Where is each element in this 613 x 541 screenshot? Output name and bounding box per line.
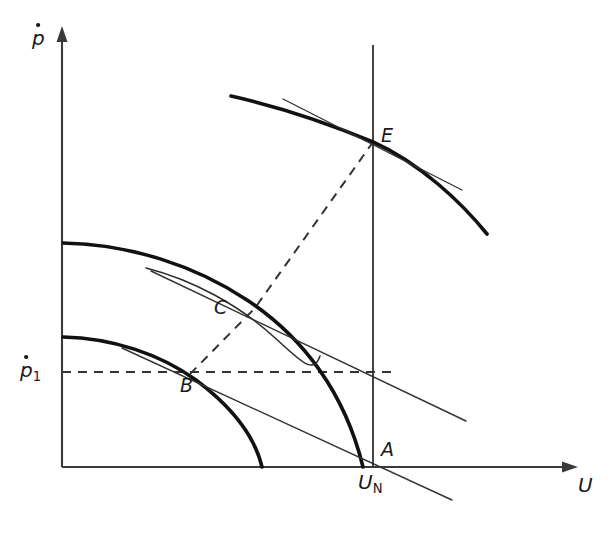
- y-axis-label: p: [32, 28, 45, 48]
- figure-root: p p1 U UN E C B A: [0, 0, 613, 541]
- x-axis-arrow-icon: [562, 462, 578, 473]
- x-tick-label-base: U: [358, 470, 373, 494]
- x-axis-label: U: [578, 475, 593, 495]
- y-axis-label-text: p: [32, 28, 45, 48]
- point-label-B: B: [180, 376, 193, 395]
- y-tick-label-subscript: 1: [33, 369, 42, 384]
- load-transfer-dashed-path: [190, 142, 373, 374]
- upper-characteristic-curve: [231, 96, 487, 234]
- y-tick-label-base: p: [20, 360, 33, 380]
- y-axis-arrow-icon: [57, 26, 68, 42]
- diagram-canvas: [0, 0, 613, 541]
- x-tick-label-subscript: N: [373, 481, 383, 496]
- y-axis-tick-label: p1: [20, 360, 41, 383]
- point-label-A: A: [381, 440, 394, 459]
- x-axis-group: [62, 462, 578, 473]
- middle-characteristic-curve: [63, 243, 363, 467]
- tangent-at-C: [151, 271, 466, 421]
- point-label-C: C: [214, 298, 227, 317]
- inner-characteristic-curve: [146, 268, 320, 365]
- x-axis-tick-label: UN: [358, 472, 383, 495]
- tangent-at-B: [122, 348, 452, 500]
- point-label-E: E: [381, 126, 393, 145]
- lower-characteristic-curve: [63, 337, 262, 467]
- x-axis-label-text: U: [578, 473, 593, 497]
- y-axis-group: [57, 26, 68, 467]
